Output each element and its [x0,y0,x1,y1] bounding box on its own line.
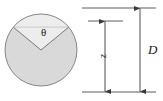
depth-z-label: z [98,54,108,58]
diameter-D-label: D [148,43,157,56]
cross-section-drawing [0,0,163,101]
angle-theta-label: θ [41,27,46,38]
figure-container: θ z D [0,0,163,101]
